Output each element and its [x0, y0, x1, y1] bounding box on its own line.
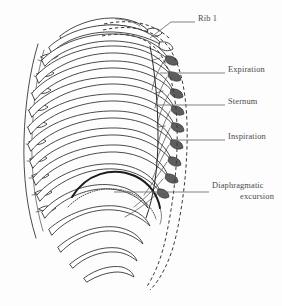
anatomy-illustration: .rib { fill:#ffffff; stroke:#2b2b2b; str…: [0, 0, 282, 306]
rib-11: [37, 164, 169, 201]
rib-cage-figure: .rib { fill:#ffffff; stroke:#2b2b2b; str…: [0, 0, 282, 306]
costal-margin: [49, 206, 150, 282]
